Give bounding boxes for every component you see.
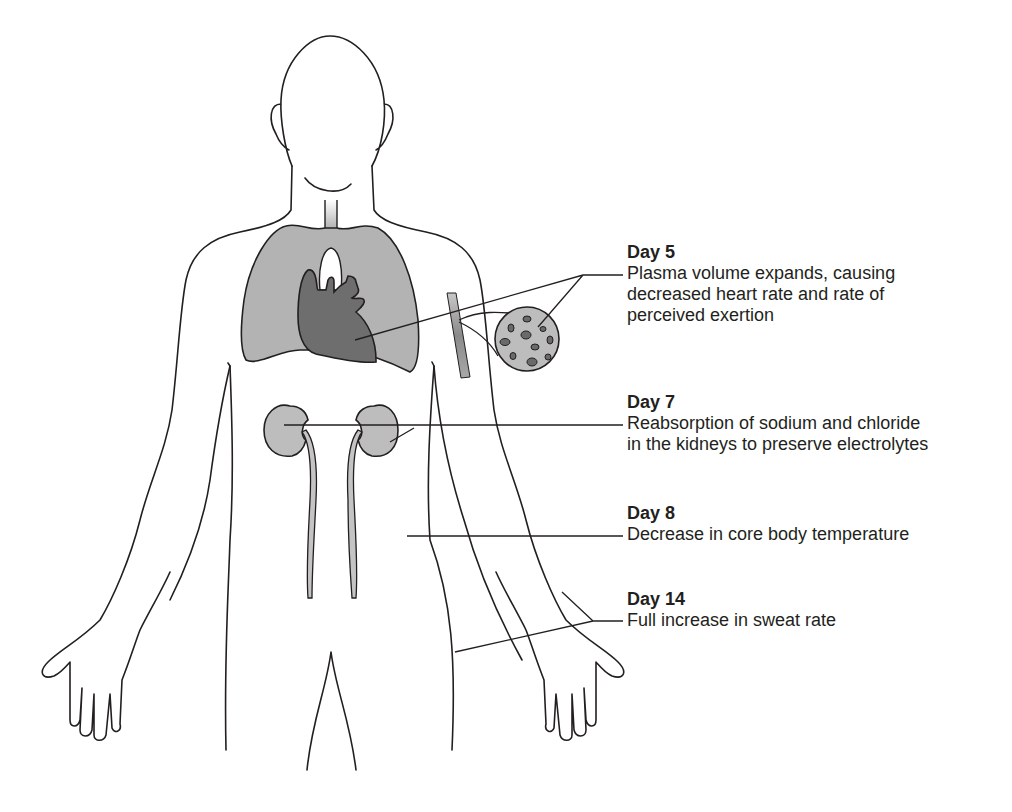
left-torso-side [225,366,232,750]
left-kidney [264,405,308,456]
trachea [325,200,337,228]
label-day14-description: Full increase in sweat rate [627,610,836,631]
label-day14-title: Day 14 [627,589,836,610]
crotch-line [307,652,356,770]
label-day7-title: Day 7 [627,392,928,413]
chin-line [305,178,351,191]
plasma-magnified-circle [459,307,559,371]
left-inner-arm [170,363,230,600]
right-inner-arm [432,362,522,660]
label-day7: Day 7 Reabsorption of sodium and chlorid… [627,392,928,455]
right-kidney [356,405,398,456]
body-left-outline [42,166,292,740]
head-outline [271,36,393,166]
label-day5-description: Plasma volume expands, causing decreased… [627,263,895,326]
label-day14: Day 14 Full increase in sweat rate [627,589,836,631]
body-right-outline [372,166,624,740]
label-day8-title: Day 8 [627,503,909,524]
right-ureter [347,430,362,598]
blood-vessel [447,293,470,378]
label-day5-title: Day 5 [627,242,895,263]
label-day5: Day 5 Plasma volume expands, causing dec… [627,242,895,326]
leader-day14 [455,592,623,652]
label-day8-description: Decrease in core body temperature [627,524,909,545]
left-ureter [302,430,317,598]
leader-day7 [284,425,623,442]
label-day7-description: Reabsorption of sodium and chloride in t… [627,413,928,455]
label-day8: Day 8 Decrease in core body temperature [627,503,909,545]
